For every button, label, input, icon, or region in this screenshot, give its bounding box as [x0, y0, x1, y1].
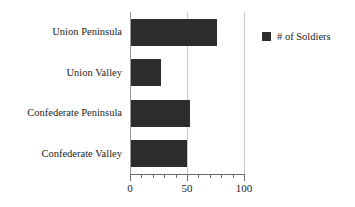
value-axis-tick-labels: 0 50 100	[0, 182, 355, 198]
tick-80	[221, 175, 222, 178]
category-label-confederate-valley: Confederate Valley	[0, 148, 122, 159]
bar-union-peninsula	[131, 19, 217, 46]
tick-40	[176, 175, 177, 178]
tick-70	[210, 175, 211, 178]
legend-label: # of Soldiers	[277, 31, 331, 42]
bar-union-valley	[131, 59, 161, 86]
tick-20	[153, 175, 154, 178]
tick-100	[244, 175, 245, 181]
category-label-union-peninsula: Union Peninsula	[0, 26, 122, 37]
bar-confederate-valley	[131, 140, 187, 167]
value-axis-ticks	[130, 175, 245, 181]
category-axis-labels: Union Peninsula Union Valley Confederate…	[0, 12, 127, 174]
category-label-confederate-peninsula: Confederate Peninsula	[0, 107, 122, 118]
tick-50	[187, 175, 188, 181]
legend-swatch-icon	[262, 32, 271, 41]
tick-label-100: 100	[236, 182, 253, 195]
legend: # of Soldiers	[262, 31, 331, 42]
tick-30	[164, 175, 165, 178]
tick-10	[141, 175, 142, 178]
tick-0	[130, 175, 131, 181]
plot-area	[130, 12, 244, 174]
bar-chart: Union Peninsula Union Valley Confederate…	[0, 0, 355, 207]
gridline-100	[244, 12, 245, 174]
tick-label-0: 0	[127, 182, 133, 195]
tick-60	[198, 175, 199, 178]
tick-90	[233, 175, 234, 178]
bar-confederate-peninsula	[131, 100, 190, 127]
category-label-union-valley: Union Valley	[0, 67, 122, 78]
tick-label-50: 50	[182, 182, 193, 195]
